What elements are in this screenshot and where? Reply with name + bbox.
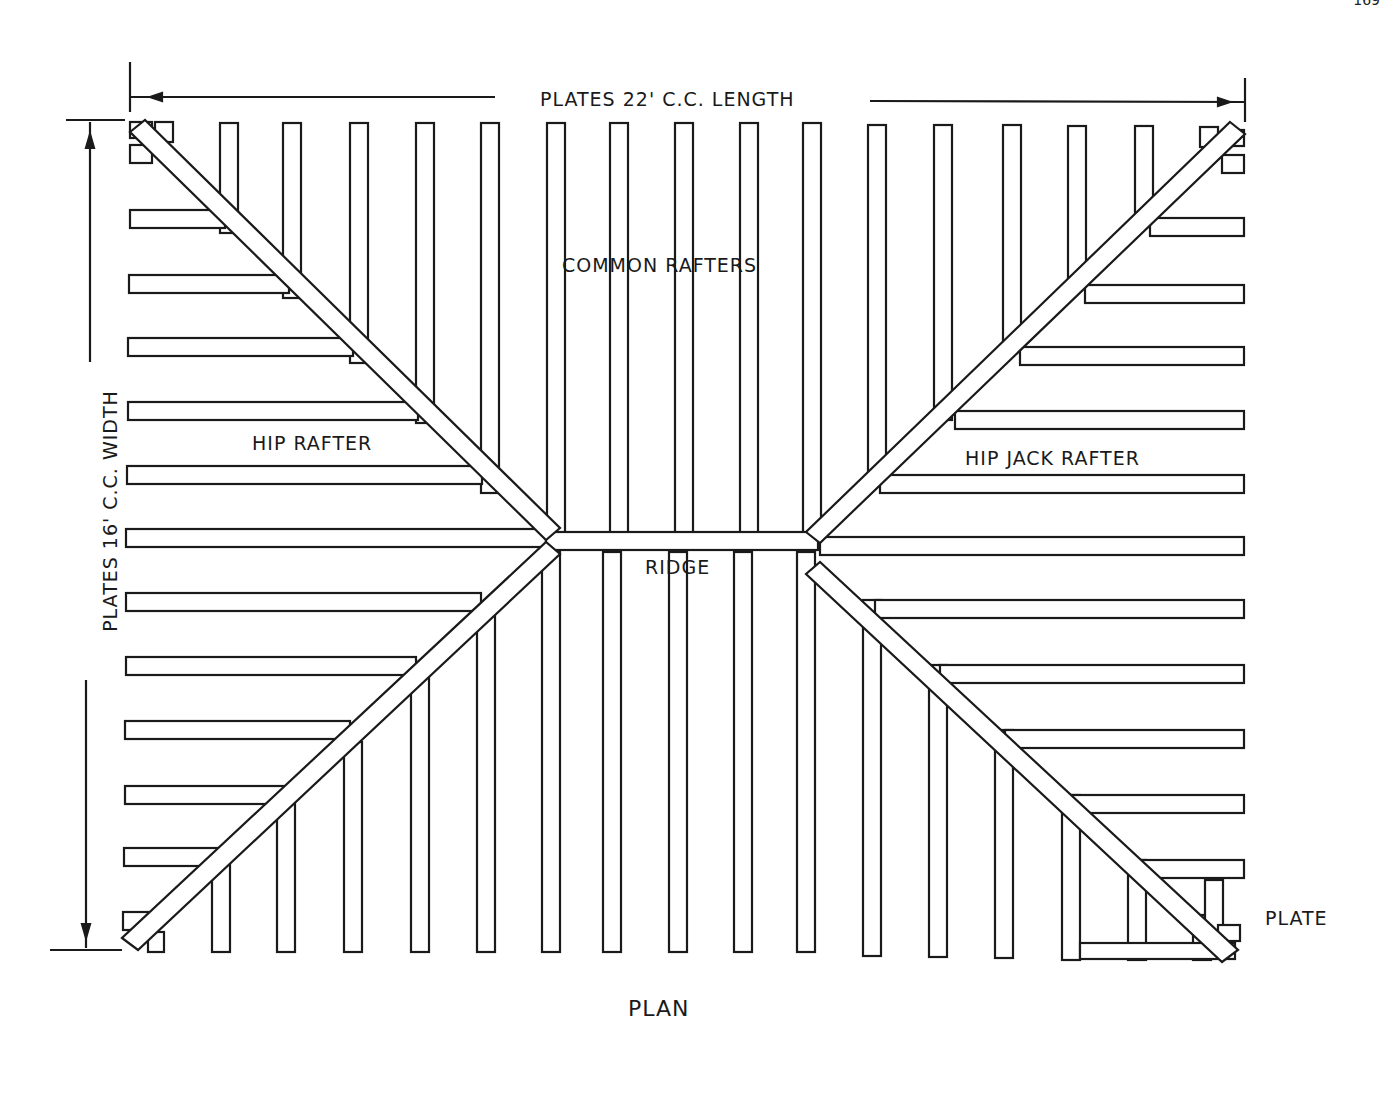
ridge-label: Ridge <box>645 556 710 578</box>
roof-framing-plan <box>0 0 1388 1093</box>
width-label: Plates 16' C.C. Width <box>99 361 121 661</box>
common-rafters-label: Common Rafters <box>562 254 757 276</box>
ridge-board <box>546 532 818 550</box>
hip-rafter-label: Hip Rafter <box>252 432 372 454</box>
plan-title: Plan <box>628 996 690 1021</box>
hip-jack-rafter-label: Hip Jack Rafter <box>965 447 1140 469</box>
length-label: Plates 22' C.C. Length <box>540 88 795 110</box>
plate-label: Plate <box>1265 907 1328 929</box>
